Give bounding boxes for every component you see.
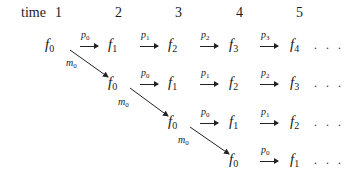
arrow-label-p0: p0 — [261, 144, 270, 157]
arrow-icon — [140, 46, 158, 47]
node-f0: f0 — [168, 113, 177, 131]
time-5: 5 — [296, 5, 303, 21]
node-f0: f0 — [45, 36, 54, 54]
arrow-icon — [260, 123, 278, 124]
arrow-label-p0: p0 — [81, 29, 90, 42]
node-f0: f0 — [229, 151, 238, 169]
arrow-icon — [200, 123, 218, 124]
node-f1: f1 — [229, 113, 238, 131]
arrow-label-p3: p3 — [261, 29, 270, 42]
ellipsis: . . . — [314, 76, 344, 91]
arrow-label-m0: m0 — [66, 57, 77, 70]
arrow-label-p1: p1 — [141, 29, 150, 42]
node-f3: f3 — [229, 36, 238, 54]
node-f3: f3 — [290, 74, 299, 92]
ellipsis: . . . — [314, 38, 344, 53]
arrow-icon — [140, 84, 158, 85]
arrow-icon — [260, 84, 278, 85]
arrow-icon — [260, 46, 278, 47]
arrow-label-p0: p0 — [201, 106, 210, 119]
arrow-icon — [200, 84, 218, 85]
time-3: 3 — [175, 5, 182, 21]
arrow-label-p1: p1 — [201, 67, 210, 80]
node-f1: f1 — [108, 36, 117, 54]
time-1: 1 — [55, 5, 62, 21]
arrow-icon — [200, 46, 218, 47]
node-f2: f2 — [290, 113, 299, 131]
time-2: 2 — [115, 5, 122, 21]
arrow-label-m0: m0 — [178, 134, 189, 147]
arrow-icon — [260, 161, 278, 162]
node-f4: f4 — [290, 36, 299, 54]
ellipsis: . . . — [314, 153, 344, 168]
arrow-label-p1: p1 — [261, 106, 270, 119]
node-f2: f2 — [168, 36, 177, 54]
arrow-label-p2: p2 — [261, 67, 270, 80]
node-f1: f1 — [290, 151, 299, 169]
arrow-icon — [80, 46, 98, 47]
node-f0: f0 — [108, 74, 117, 92]
arrow-label-p2: p2 — [201, 29, 210, 42]
node-f1: f1 — [168, 74, 177, 92]
arrow-label-m0: m0 — [118, 96, 129, 109]
time-4: 4 — [236, 5, 243, 21]
arrow-label-p0: p0 — [141, 67, 150, 80]
node-f2: f2 — [229, 74, 238, 92]
time-label: time — [21, 5, 46, 21]
ellipsis: . . . — [314, 115, 344, 130]
